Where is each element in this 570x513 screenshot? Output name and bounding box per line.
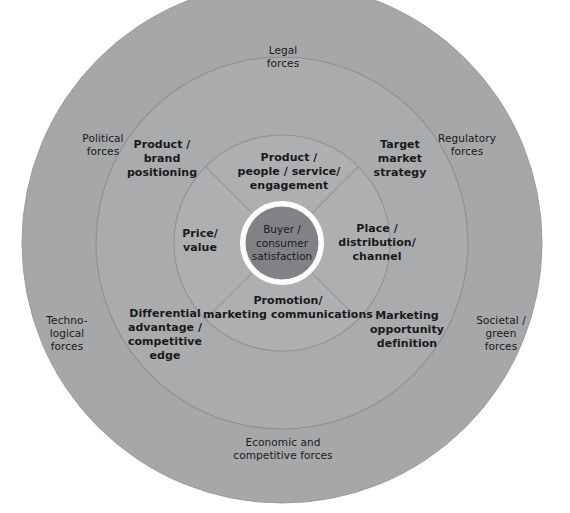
rings-graphic [0, 0, 570, 513]
concentric-marketing-diagram: Legal forces Political forces Regulatory… [0, 0, 570, 513]
core-circle [245, 206, 319, 280]
